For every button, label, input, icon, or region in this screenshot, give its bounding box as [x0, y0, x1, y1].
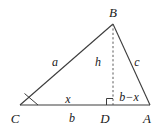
- side-label-b: b: [69, 112, 75, 124]
- vertex-label-b: B: [109, 6, 117, 19]
- vertex-label-c: C: [11, 112, 20, 125]
- side-label-c: c: [134, 56, 139, 68]
- measure-label-b-minus-x: b−x: [119, 91, 138, 103]
- geometry-diagram: B C D A a c b h x b−x: [0, 0, 163, 129]
- right-angle-marker-d: [107, 99, 114, 106]
- vertex-label-d: D: [100, 112, 109, 125]
- measure-label-x: x: [65, 93, 70, 105]
- altitude-label-h: h: [95, 56, 101, 68]
- side-label-a: a: [52, 56, 58, 68]
- vertex-label-a: A: [143, 112, 151, 125]
